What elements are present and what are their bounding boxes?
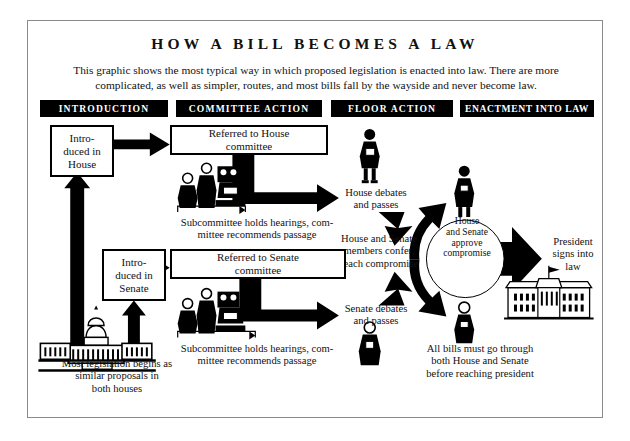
person-speaker-icon-house: [360, 129, 380, 183]
box-introduced-in-house: Intro- duced in House: [50, 125, 114, 177]
person-speaker-icon-senate: [359, 322, 381, 365]
arrow-capitol-to-house-intro: [64, 172, 90, 349]
label-house-debates: House debates and passes: [324, 187, 428, 212]
person-speaker-icon-conferee-top: [454, 166, 474, 217]
label-senate-debates: Senate debates and passes: [324, 303, 428, 328]
committee-group-icon-senate: [178, 289, 246, 334]
person-speaker-icon-conferee-bottom: [454, 302, 474, 343]
arrow-capitol-to-senate-intro: [122, 301, 146, 350]
infographic-frame: HOW A BILL BECOMES A LAW This graphic sh…: [27, 20, 603, 418]
box-introduced-in-senate: Intro- duced in Senate: [102, 249, 166, 301]
box-referred-to-house: Referred to House committee: [170, 125, 328, 155]
label-all-bills-note: All bills must go through both House and…: [388, 343, 572, 380]
box-referred-to-senate: Referred to Senate committee: [170, 249, 346, 279]
arrow-senate-to-conference: [379, 272, 413, 306]
label-capitol-caption: Most legislation begins as similar propo…: [34, 358, 200, 395]
arrow-house-committee-to-floor: [232, 154, 338, 212]
arrow-house-intro-to-committee: [114, 132, 170, 156]
label-president-signs: President signs into law: [536, 236, 610, 273]
committee-group-icon-house: [178, 163, 246, 208]
label-approve-compromise: House and Senate approve compromise: [428, 216, 506, 259]
